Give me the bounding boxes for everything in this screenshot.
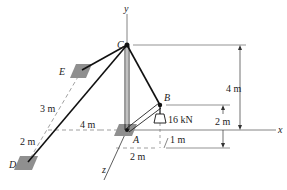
label-2m-B: 2 m [215, 116, 231, 127]
pad-D [14, 156, 38, 170]
label-x: x [277, 124, 283, 135]
label-4m-height: 4 m [226, 83, 242, 94]
joint-C [125, 43, 130, 48]
label-B: B [164, 92, 170, 103]
joint-A [125, 128, 129, 132]
tick-1m [164, 138, 168, 148]
label-3m: 3 m [40, 103, 56, 114]
weight-icon [154, 114, 166, 123]
dashed-line-ED [28, 70, 82, 162]
statics-diagram: y x z C B A E D 16 kN 4 m 2 m 3 m 2 m 4 … [0, 0, 287, 190]
label-A: A [132, 134, 140, 145]
arrowhead-up-2m [221, 105, 225, 110]
boom-AB-upper [127, 103, 159, 128]
arrowhead-down [238, 125, 242, 130]
label-load: 16 kN [168, 114, 193, 125]
z-axis [104, 130, 127, 180]
label-1m: 1 m [170, 134, 186, 145]
label-z: z [101, 164, 106, 175]
label-C: C [117, 39, 124, 50]
label-E: E [58, 66, 65, 77]
label-2m-D: 2 m [20, 136, 36, 147]
cable-CB [127, 45, 160, 105]
label-4m-x: 4 m [80, 119, 96, 130]
arrowhead-up [238, 45, 242, 50]
arrowhead-down-2m [221, 143, 225, 148]
label-2m-x: 2 m [130, 151, 146, 162]
label-y: y [123, 3, 129, 14]
label-D: D [8, 159, 17, 170]
